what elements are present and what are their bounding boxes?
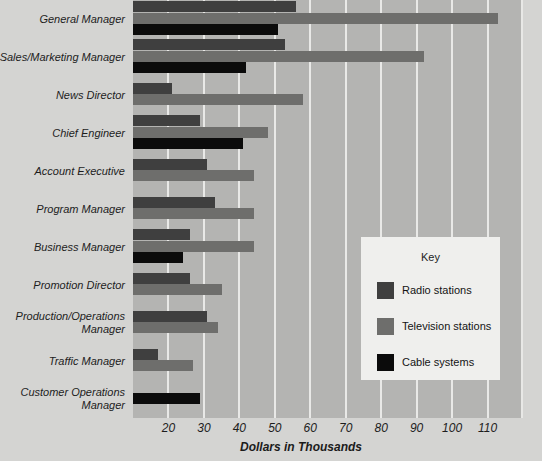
category-label: Chief Engineer (0, 127, 125, 140)
bar (133, 159, 207, 170)
category-label: Traffic Manager (0, 355, 125, 368)
x-tick-label: 100 (442, 421, 462, 435)
bar (133, 24, 278, 35)
bar (133, 13, 498, 24)
bar (133, 62, 246, 73)
legend-swatch (377, 318, 394, 335)
bar (133, 83, 172, 94)
category-label: General Manager (0, 13, 125, 26)
bar (133, 273, 190, 284)
bar (133, 252, 183, 263)
category-label: Program Manager (0, 203, 125, 216)
x-axis-title-text: Dollars in Thousands (240, 440, 362, 454)
x-tick-label: 20 (162, 421, 175, 435)
legend-title: Key (361, 251, 500, 263)
x-tick-label: 80 (374, 421, 387, 435)
gridline (345, 0, 347, 418)
bar (133, 170, 254, 181)
legend-label: Radio stations (402, 284, 472, 296)
x-tick-label: 40 (233, 421, 246, 435)
bar (133, 208, 254, 219)
legend-label: Television stations (402, 320, 491, 332)
bar (133, 115, 200, 126)
bar (133, 138, 243, 149)
legend: Key Radio stationsTelevision stationsCab… (361, 237, 500, 380)
bar (133, 284, 222, 295)
category-axis: General ManagerSales/Marketing ManagerNe… (0, 0, 131, 418)
legend-entry: Television stations (377, 317, 491, 335)
x-axis-title: Dollars in Thousands (0, 440, 542, 454)
x-tick-label: 90 (410, 421, 423, 435)
bar (133, 349, 158, 360)
x-tick-label: 110 (478, 421, 497, 435)
category-label: Customer Operations Manager (0, 386, 125, 412)
category-label: Business Manager (0, 241, 125, 254)
legend-label: Cable systems (402, 356, 474, 368)
bar (133, 393, 200, 404)
legend-entry: Cable systems (377, 353, 474, 371)
bar (133, 1, 296, 12)
bar (133, 94, 303, 105)
category-label: Promotion Director (0, 279, 125, 292)
bar (133, 197, 215, 208)
legend-entry: Radio stations (377, 281, 472, 299)
bar (133, 360, 193, 371)
x-axis-ticks: 2030405060708090100110 (0, 421, 542, 441)
bar-chart: General ManagerSales/Marketing ManagerNe… (0, 0, 542, 461)
bar (133, 311, 207, 322)
x-tick-label: 30 (197, 421, 210, 435)
bar (133, 229, 190, 240)
category-label: Production/Operations Manager (0, 310, 125, 336)
bar (133, 241, 254, 252)
category-label: Sales/Marketing Manager (0, 51, 125, 64)
legend-swatch (377, 354, 394, 371)
bar (133, 322, 218, 333)
bar (133, 39, 285, 50)
category-label: News Director (0, 89, 125, 102)
x-tick-label: 70 (339, 421, 352, 435)
bar (133, 51, 424, 62)
category-label: Account Executive (0, 165, 125, 178)
gridline (309, 0, 311, 418)
gridline (274, 0, 276, 418)
legend-swatch (377, 282, 394, 299)
bar (133, 127, 268, 138)
x-tick-label: 60 (304, 421, 317, 435)
x-tick-label: 50 (268, 421, 281, 435)
